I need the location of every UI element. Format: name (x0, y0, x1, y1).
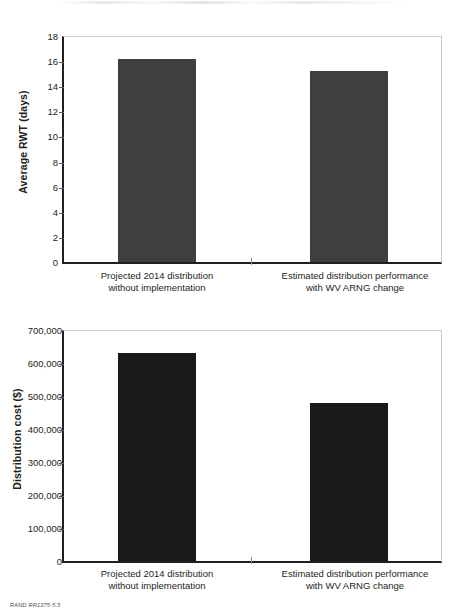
y-tick-bottom-mark-5 (59, 397, 64, 398)
y-tick-bottom-1: 100,000 (28, 524, 62, 534)
category-label-1-bottom-line2: without implementation (62, 580, 252, 592)
footer-figure-code: RR1375-5.5 (28, 602, 60, 608)
y-tick-top-3: 6 (53, 183, 58, 193)
y-tick-bottom-3: 300,000 (28, 458, 62, 468)
category-label-2-top-line2: with WV ARNG change (252, 282, 458, 294)
category-label-2-bottom: Estimated distribution performance with … (252, 568, 458, 592)
plot-area-top (62, 36, 442, 264)
chart-average-rwt: Average RWT (days) 024681012141618 Proje… (0, 18, 469, 318)
y-tick-bottom-mark-1 (59, 529, 64, 530)
category-label-2-top: Estimated distribution performance with … (252, 270, 458, 294)
figure-page: Average RWT (days) 024681012141618 Proje… (0, 0, 469, 616)
category-label-2-bottom-line1: Estimated distribution performance (252, 568, 458, 580)
axis-center-tick-bottom (251, 557, 252, 564)
scan-artifact (60, 1, 409, 4)
y-tick-bottom-5: 500,000 (28, 392, 62, 402)
y-tick-bottom-mark-3 (59, 463, 64, 464)
category-label-1-top: Projected 2014 distribution without impl… (62, 270, 252, 294)
plot-area-bottom (62, 330, 442, 563)
category-label-2-bottom-line2: with WV ARNG change (252, 580, 458, 592)
footer-org: RAND (10, 602, 27, 608)
y-tick-top-mark-6 (59, 112, 64, 113)
y-tick-bottom-7: 700,000 (28, 326, 62, 336)
y-tick-top-0: 0 (53, 258, 58, 268)
y-axis-tick-labels-bottom: 0100,000200,000300,000400,000500,000600,… (14, 312, 62, 597)
figure-source-credit: RAND RR1375-5.5 (10, 602, 61, 608)
y-tick-bottom-4: 400,000 (28, 425, 62, 435)
y-tick-top-9: 18 (47, 32, 58, 42)
y-tick-bottom-mark-6 (59, 364, 64, 365)
category-label-1-bottom: Projected 2014 distribution without impl… (62, 568, 252, 592)
y-tick-top-6: 12 (47, 108, 58, 118)
y-axis-tick-labels-top: 024681012141618 (14, 18, 58, 318)
y-tick-top-mark-5 (59, 137, 64, 138)
y-tick-top-2: 4 (53, 208, 58, 218)
chart-distribution-cost: Distribution cost ($) 0100,000200,000300… (0, 312, 469, 597)
y-tick-top-mark-4 (59, 163, 64, 164)
y-tick-top-8: 16 (47, 57, 58, 67)
category-label-2-top-line1: Estimated distribution performance (252, 270, 458, 282)
category-label-1-top-line1: Projected 2014 distribution (62, 270, 252, 282)
axis-center-tick-top (251, 258, 252, 265)
y-tick-top-5: 10 (47, 133, 58, 143)
bar-average-rwt-1 (118, 59, 196, 262)
y-tick-bottom-mark-4 (59, 430, 64, 431)
y-tick-top-mark-7 (59, 87, 64, 88)
bar-distribution-cost-1 (118, 353, 196, 561)
y-tick-top-mark-8 (59, 62, 64, 63)
category-label-1-top-line2: without implementation (62, 282, 252, 294)
y-tick-top-4: 8 (53, 158, 58, 168)
y-tick-bottom-6: 600,000 (28, 359, 62, 369)
y-tick-top-mark-2 (59, 213, 64, 214)
bar-average-rwt-2 (310, 71, 388, 262)
category-label-1-bottom-line1: Projected 2014 distribution (62, 568, 252, 580)
y-tick-bottom-mark-2 (59, 496, 64, 497)
y-tick-top-mark-1 (59, 238, 64, 239)
y-tick-top-1: 2 (53, 233, 58, 243)
y-tick-top-mark-3 (59, 188, 64, 189)
y-tick-bottom-2: 200,000 (28, 491, 62, 501)
bar-distribution-cost-2 (310, 403, 388, 561)
y-tick-top-7: 14 (47, 82, 58, 92)
